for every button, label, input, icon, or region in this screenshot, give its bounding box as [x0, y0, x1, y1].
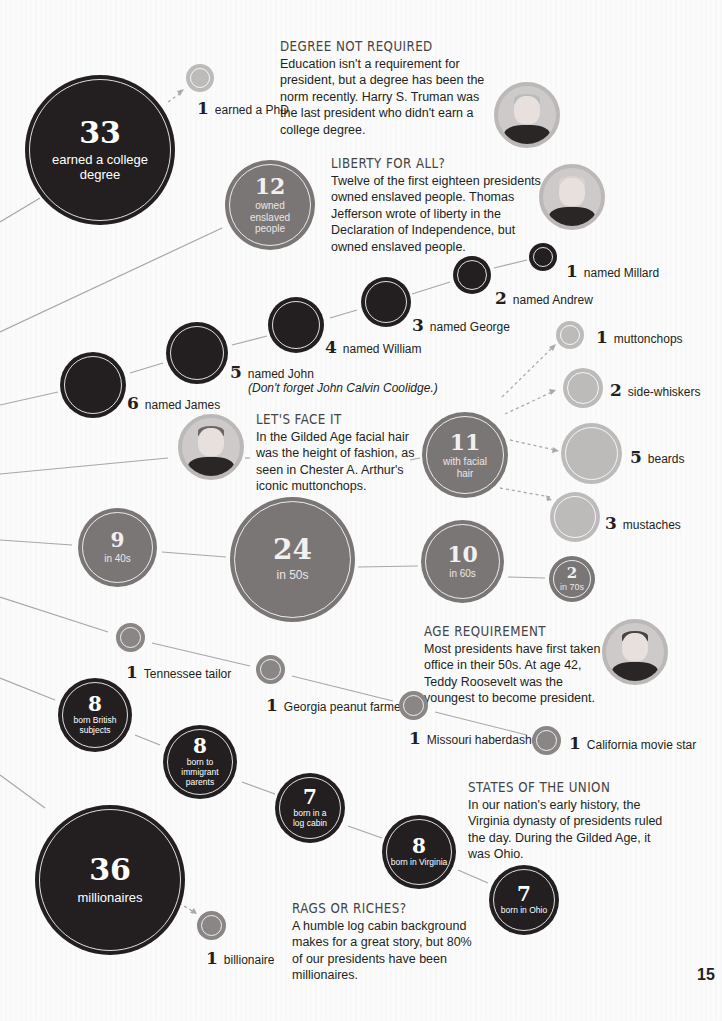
stat-label-billionaire: 1 billionaire	[206, 948, 275, 968]
stat-value: 11	[450, 431, 481, 453]
stat-text: named William	[343, 342, 422, 356]
stat-value: 8	[193, 736, 207, 756]
stat-circle-named-millard	[529, 243, 557, 271]
stat-circle-born-ohio: 7 born in Ohio	[489, 865, 559, 935]
stat-text: named James	[145, 398, 220, 412]
stat-label: millionaires	[77, 891, 142, 906]
stat-label-california-movie-star: 1 California movie star	[569, 733, 696, 753]
stat-circle-in-40s: 9 in 40s	[78, 508, 157, 587]
stat-text: billionaire	[224, 953, 275, 967]
stat-circle-beards	[561, 423, 622, 484]
stat-circle-muttonchops	[556, 321, 584, 349]
stat-circle-millionaires: 36 millionaires	[35, 805, 185, 955]
stat-label-named-william: 4 named William	[325, 337, 422, 357]
stat-text: named Andrew	[513, 293, 593, 307]
note-body: Most presidents have first taken office …	[424, 641, 614, 707]
note-heading: STATES OF THE UNION	[468, 779, 638, 796]
stat-value: 2	[610, 380, 622, 400]
stat-circle-named-william	[268, 297, 324, 353]
note-body: In the Gilded Age facial hair was the he…	[256, 429, 416, 495]
stat-label-missouri-haberdasher: 1 Missouri haberdasher	[409, 728, 542, 748]
stat-value: 8	[412, 836, 426, 856]
stat-text: Georgia peanut farmer	[284, 700, 405, 714]
stat-label-muttonchops: 1 muttonchops	[596, 327, 683, 347]
stat-value: 2	[495, 288, 507, 308]
stat-text: named John	[248, 367, 314, 381]
stat-label: born British subjects	[69, 716, 121, 736]
stat-label-named-james: 6 named James	[127, 393, 220, 413]
stat-circle-college-degree: 33 earned a college degree	[25, 75, 175, 225]
stat-value: 12	[255, 175, 286, 197]
stat-value: 7	[517, 884, 531, 904]
stat-value: 10	[447, 543, 478, 565]
stat-value: 1	[596, 327, 608, 347]
stat-label: in 70s	[560, 582, 584, 592]
stat-value: 8	[88, 694, 102, 714]
note-body: Twelve of the first eighteen presidents …	[331, 173, 546, 256]
stat-value: 24	[273, 536, 312, 564]
portrait-face	[622, 633, 648, 661]
stat-label: with facial hair	[437, 456, 493, 479]
note-states-of-the-union: STATES OF THE UNION In our nation's earl…	[468, 779, 668, 863]
stat-label: in 50s	[276, 569, 308, 583]
stat-circle-enslaved: 12 owned enslaved people	[225, 160, 315, 250]
stat-label: born in a log cabin	[290, 809, 330, 829]
stat-text: side-whiskers	[628, 385, 701, 399]
stat-text: named George	[430, 320, 510, 334]
stat-label-phd: 1 earned a PhD	[197, 98, 289, 118]
stat-label-side-whiskers: 2 side-whiskers	[610, 380, 701, 400]
stat-circle-in-60s: 10 in 60s	[421, 520, 504, 603]
portrait-jefferson	[539, 164, 605, 230]
stat-text: Missouri haberdasher	[427, 733, 542, 747]
stat-circle-named-james	[60, 352, 126, 418]
john-coolidge-note: (Don't forget John Calvin Coolidge.)	[248, 381, 438, 395]
stat-label-named-george: 3 named George	[412, 315, 510, 335]
stat-text: California movie star	[587, 738, 696, 752]
stat-value: 1	[569, 733, 581, 753]
stat-circle-in-50s: 24 in 50s	[230, 497, 355, 622]
stat-label-named-andrew: 2 named Andrew	[495, 288, 593, 308]
stat-value: 36	[89, 855, 131, 885]
stat-circle-tennessee-tailor	[116, 623, 145, 652]
note-rags-or-riches: RAGS OR RICHES? A humble log cabin backg…	[292, 900, 477, 984]
portrait-arthur	[178, 414, 244, 480]
note-heading: AGE REQUIREMENT	[424, 623, 586, 640]
stat-value: 1	[206, 948, 218, 968]
note-heading: DEGREE NOT REQUIRED	[280, 38, 459, 55]
stat-value: 1	[197, 98, 209, 118]
stat-circle-missouri-haberdasher	[399, 691, 428, 720]
stat-text: beards	[648, 452, 685, 466]
stat-circle-side-whiskers	[563, 368, 603, 408]
stat-label-beards: 5 beards	[630, 447, 685, 467]
stat-value: 33	[79, 118, 121, 148]
note-age-requirement: AGE REQUIREMENT Most presidents have fir…	[424, 623, 614, 707]
stat-value: 9	[111, 530, 125, 550]
stat-value: 5	[230, 362, 242, 382]
stat-text: Tennessee tailor	[144, 667, 231, 681]
note-heading: RAGS OR RICHES?	[292, 900, 449, 917]
stat-text: muttonchops	[614, 332, 683, 346]
portrait-face	[514, 96, 540, 124]
note-liberty-for-all: LIBERTY FOR ALL? Twelve of the first eig…	[331, 155, 546, 255]
stat-text: mustaches	[623, 518, 681, 532]
stat-label: in 60s	[449, 568, 476, 580]
stat-circle-in-70s: 2 in 70s	[549, 556, 595, 602]
note-heading: LIBERTY FOR ALL?	[331, 155, 514, 172]
stat-value: 4	[325, 337, 337, 357]
stat-value: 7	[303, 787, 317, 807]
stat-label-tennessee-tailor: 1 Tennessee tailor	[126, 662, 231, 682]
stat-text: named Millard	[584, 266, 659, 280]
stat-value: 1	[566, 261, 578, 281]
stat-circle-facial-hair: 11 with facial hair	[422, 412, 508, 498]
stat-value: 5	[630, 447, 642, 467]
stat-circle-california-movie-star	[532, 726, 561, 755]
stat-value: 1	[409, 728, 421, 748]
stat-label: earned a college degree	[50, 153, 150, 183]
stat-circle-born-immigrant-parents: 8 born to immigrant parents	[163, 725, 237, 799]
portrait-face	[198, 428, 224, 456]
note-degree-not-required: DEGREE NOT REQUIRED Education isn't a re…	[280, 38, 490, 138]
stat-label-named-millard: 1 named Millard	[566, 261, 659, 281]
stat-value: 3	[412, 315, 424, 335]
stat-label-named-john: 5 named John	[230, 362, 314, 382]
stat-circle-born-virginia: 8 born in Virginia	[382, 815, 456, 889]
